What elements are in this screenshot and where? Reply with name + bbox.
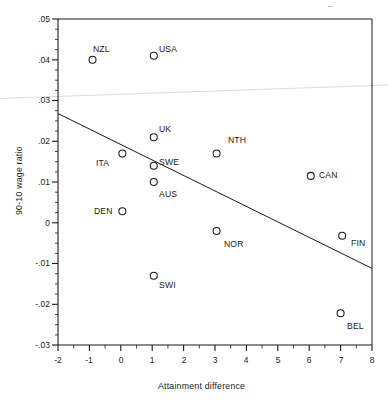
data-point-can	[307, 172, 314, 179]
data-point-nor	[213, 227, 220, 234]
y-tick-label-8: -.03	[22, 341, 50, 350]
data-point-uk	[150, 134, 157, 141]
point-label-swe: SWE	[159, 158, 179, 167]
data-point-markers	[89, 52, 346, 317]
point-label-nor: NOR	[224, 240, 244, 249]
x-tick-label-0: -2	[46, 356, 70, 365]
x-tick-label-2: 0	[109, 356, 133, 365]
data-point-aus	[150, 179, 157, 186]
point-label-swi: SWI	[159, 281, 176, 290]
data-point-nzl	[89, 56, 96, 63]
scan-speck-artifact	[328, 6, 333, 7]
data-point-swi	[150, 272, 157, 279]
point-label-nzl: NZL	[93, 45, 110, 54]
point-label-can: CAN	[319, 171, 338, 180]
x-tick-label-3: 1	[140, 356, 164, 365]
y-axis-major-ticks	[52, 19, 58, 345]
data-point-den	[119, 208, 126, 215]
point-label-aus: AUS	[159, 190, 177, 199]
data-point-nth	[213, 150, 220, 157]
x-tick-label-5: 3	[203, 356, 227, 365]
point-label-uk: UK	[159, 125, 171, 134]
x-tick-label-10: 8	[360, 356, 384, 365]
y-tick-label-4: .01	[22, 178, 50, 187]
x-tick-label-9: 7	[329, 356, 353, 365]
regression-trend-line	[58, 114, 372, 269]
data-point-usa	[150, 52, 157, 59]
point-label-nth: NTH	[228, 136, 246, 145]
point-label-usa: USA	[159, 45, 177, 54]
x-axis-title: Attainment difference	[158, 381, 245, 391]
y-tick-label-3: .02	[22, 137, 50, 146]
scatter-plot-figure: .05 .04 .03 .02 .01 0 -.01 -.02 -.03 -2 …	[0, 0, 388, 404]
point-label-fin: FIN	[351, 239, 365, 248]
data-point-swe	[150, 162, 157, 169]
y-tick-label-7: -.02	[22, 300, 50, 309]
y-tick-label-2: .03	[22, 96, 50, 105]
x-tick-label-8: 6	[297, 356, 321, 365]
y-tick-label-0: .05	[22, 15, 50, 24]
x-tick-label-1: -1	[77, 356, 101, 365]
y-tick-label-5: 0	[22, 219, 50, 228]
data-point-fin	[339, 232, 346, 239]
x-tick-label-6: 4	[234, 356, 258, 365]
point-label-bel: BEL	[347, 322, 364, 331]
point-label-den: DEN	[94, 207, 113, 216]
data-point-ita	[119, 150, 126, 157]
plot-canvas	[0, 0, 388, 404]
point-label-ita: ITA	[96, 159, 109, 168]
y-axis-title: 90-10 wage ratio	[14, 146, 24, 215]
y-tick-label-1: .04	[22, 56, 50, 65]
y-tick-label-6: -.01	[22, 259, 50, 268]
data-point-bel	[337, 310, 344, 317]
x-tick-label-4: 2	[172, 356, 196, 365]
x-tick-label-7: 5	[266, 356, 290, 365]
